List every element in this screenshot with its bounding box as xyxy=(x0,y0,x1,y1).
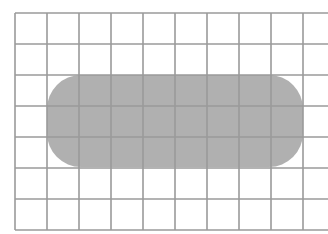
grid-diagram xyxy=(0,0,328,234)
